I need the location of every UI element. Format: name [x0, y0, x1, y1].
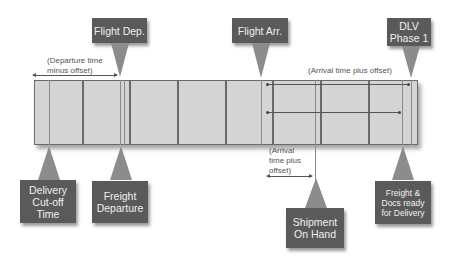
callout-label: Shipment [293, 216, 337, 228]
note-text: (Arrival time plus offset) [308, 66, 392, 75]
arrival-offset-line [268, 84, 409, 85]
departure-offset-arrow [33, 75, 117, 76]
callout-dlv-phase-1: DLV Phase 1 [387, 18, 431, 46]
marker-line-flight-arr [261, 80, 262, 145]
arrow-dot [407, 83, 410, 86]
callout-label: Freight [104, 190, 137, 202]
pointer-flight-arr [252, 43, 270, 78]
note-text: (Arrival [269, 146, 301, 156]
pointer-shipment-on-hand [305, 178, 327, 208]
callout-label: Docs ready [382, 198, 425, 208]
arrow-dot [398, 111, 401, 114]
note-text: (Departure time [47, 56, 103, 66]
callout-flight-arr: Flight Arr. [232, 18, 288, 43]
pointer-delivery-cutoff [38, 146, 60, 180]
arrival-offset-note: (Arrival time plus offset) [269, 146, 301, 176]
arrow-dot [266, 83, 269, 86]
marker-line-dlv-phase [411, 80, 412, 145]
callout-label: for Delivery [382, 208, 425, 218]
marker-line-freight-docs [402, 80, 403, 145]
callout-label: DLV [399, 20, 419, 32]
callout-label: Cut-off [32, 196, 63, 208]
arrow-dot [266, 111, 269, 114]
marker-line-freight-departure [124, 80, 125, 145]
marker-line-flight-dep [120, 80, 121, 145]
pointer-dlv-phase-1 [402, 46, 420, 78]
callout-freight-docs-ready: Freight & Docs ready for Delivery [375, 181, 431, 224]
pointer-freight-docs-ready [392, 146, 414, 180]
timeline-divider [82, 80, 84, 145]
pointer-flight-dep [111, 43, 129, 77]
callout-delivery-cutoff: Delivery Cut-off Time [20, 180, 76, 223]
callout-label: Flight Dep. [94, 25, 145, 37]
arrival-offset-top-note: (Arrival time plus offset) [308, 66, 392, 76]
callout-label: Phase 1 [390, 32, 429, 44]
timeline-divider [177, 80, 179, 145]
timeline-divider [225, 80, 227, 145]
arrival-offset-line [268, 112, 400, 113]
callout-freight-departure: Freight Departure [92, 181, 148, 223]
callout-shipment-on-hand: Shipment On Hand [286, 208, 344, 248]
marker-line-delivery-cutoff [49, 80, 50, 145]
callout-label: Delivery [29, 184, 67, 196]
arrival-offset-arrow [267, 176, 312, 177]
note-text: time plus [269, 156, 301, 166]
departure-offset-note: (Departure time minus offset) [47, 56, 103, 76]
callout-label: Time [37, 208, 60, 220]
callout-label: Flight Arr. [238, 25, 282, 37]
note-text: offset) [269, 166, 301, 176]
callout-label: On Hand [294, 228, 336, 240]
callout-flight-dep: Flight Dep. [92, 18, 147, 43]
marker-line-shipment-on-hand [315, 80, 316, 180]
callout-label: Freight & [386, 188, 421, 198]
timeline-divider [129, 80, 131, 145]
callout-label: Departure [97, 202, 144, 214]
pointer-freight-departure [110, 146, 132, 180]
